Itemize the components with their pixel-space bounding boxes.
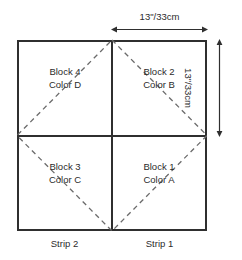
quadrant-label-bottom-right: Block 1 Color A (120, 161, 198, 186)
quilt-diagram: Block 4 Color D Block 2 Color B Block 3 … (0, 0, 242, 260)
top-dimension-label: 13"/33cm (112, 11, 207, 22)
top-dimension-arrow-icon (110, 24, 209, 35)
block-name: Block 3 (26, 161, 104, 174)
block-name: Block 1 (120, 161, 198, 174)
right-dimension-label: 13"/33cm (181, 40, 195, 136)
quadrant-label-bottom-left: Block 3 Color C (26, 161, 104, 186)
quadrant-label-top-left: Block 4 Color D (26, 66, 104, 91)
right-dimension-arrow-icon (214, 38, 225, 138)
strip-label-left: Strip 2 (17, 238, 112, 249)
block-name: Block 4 (26, 66, 104, 79)
color-name: Color C (26, 174, 104, 187)
color-name: Color A (120, 174, 198, 187)
color-name: Color D (26, 79, 104, 92)
strip-label-right: Strip 1 (112, 238, 207, 249)
